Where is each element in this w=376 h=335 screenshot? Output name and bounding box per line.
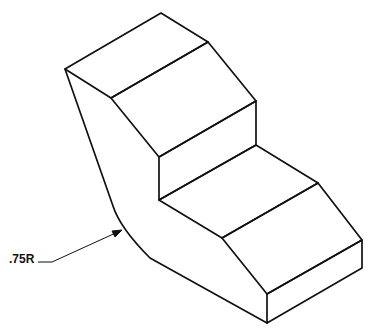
step-face xyxy=(159,145,318,238)
isometric-block-drawing xyxy=(0,0,376,335)
radius-annotation: .75R xyxy=(9,252,34,266)
upper-slope-face xyxy=(111,42,256,157)
top-face xyxy=(65,13,208,98)
lower-slope-face xyxy=(222,183,362,294)
leader-arrow-icon xyxy=(112,230,122,237)
front-end-face xyxy=(267,240,362,323)
upper-riser-face xyxy=(159,101,256,200)
